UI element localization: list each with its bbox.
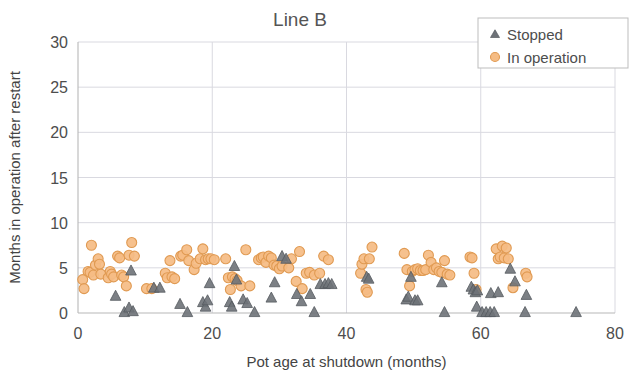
data-point-in-operation — [501, 243, 511, 253]
data-point-stopped — [249, 307, 260, 317]
y-tick-label: 20 — [50, 124, 68, 141]
data-point-in-operation — [129, 251, 139, 261]
data-point-in-operation — [362, 287, 372, 297]
y-tick-label: 10 — [50, 215, 68, 232]
y-tick-label: 30 — [50, 34, 68, 51]
x-tick-label: 40 — [338, 325, 356, 342]
data-point-stopped — [269, 277, 280, 287]
data-point-in-operation — [522, 272, 532, 282]
data-point-in-operation — [221, 254, 231, 264]
data-point-in-operation — [209, 255, 219, 265]
data-point-in-operation — [127, 238, 137, 248]
data-point-in-operation — [241, 245, 251, 255]
data-point-in-operation — [170, 274, 180, 284]
data-point-stopped — [229, 260, 240, 270]
data-point-in-operation — [245, 281, 255, 291]
data-point-stopped — [521, 289, 532, 299]
gridlines — [78, 42, 615, 313]
y-tick-label: 15 — [50, 170, 68, 187]
data-point-in-operation — [364, 254, 374, 264]
x-tick-label: 60 — [472, 325, 490, 342]
legend-marker-circle-icon — [491, 53, 500, 62]
data-point-stopped — [175, 298, 186, 308]
data-point-in-operation — [405, 281, 415, 291]
data-point-in-operation — [121, 281, 131, 291]
data-point-in-operation — [469, 268, 479, 278]
data-point-in-operation — [94, 259, 104, 269]
data-point-stopped — [204, 278, 215, 288]
data-point-in-operation — [284, 263, 294, 273]
data-point-in-operation — [86, 240, 96, 250]
chart-title: Line B — [273, 9, 327, 30]
data-point-in-operation — [315, 268, 325, 278]
data-point-stopped — [493, 287, 504, 297]
data-point-in-operation — [295, 247, 305, 257]
legend-label: In operation — [507, 49, 586, 66]
data-point-in-operation — [225, 285, 235, 295]
data-point-stopped — [439, 307, 450, 317]
data-point-stopped — [510, 276, 521, 286]
y-axis-label: Months in operation after restart — [6, 70, 23, 283]
data-point-in-operation — [115, 253, 125, 263]
data-point-stopped — [520, 307, 531, 317]
data-point-in-operation — [440, 256, 450, 266]
data-point-stopped — [571, 307, 582, 317]
x-tick-label: 80 — [606, 325, 624, 342]
data-point-in-operation — [198, 244, 208, 254]
scatter-chart: 020406080051015202530Pot age at shutdown… — [0, 0, 632, 388]
data-point-in-operation — [399, 248, 409, 258]
data-point-in-operation — [165, 256, 175, 266]
y-tick-label: 25 — [50, 79, 68, 96]
data-point-stopped — [309, 307, 320, 317]
data-point-in-operation — [503, 254, 513, 264]
data-point-stopped — [126, 265, 137, 275]
y-tick-label: 0 — [59, 305, 68, 322]
chart-legend: StoppedIn operation — [478, 18, 628, 68]
data-point-in-operation — [182, 245, 192, 255]
data-point-in-operation — [467, 253, 477, 263]
x-tick-label: 20 — [203, 325, 221, 342]
y-tick-label: 5 — [59, 260, 68, 277]
legend-label: Stopped — [507, 26, 563, 43]
x-axis-label: Pot age at shutdown (months) — [246, 353, 446, 370]
data-point-stopped — [110, 290, 121, 300]
x-tick-label: 0 — [74, 325, 83, 342]
chart-figure: 020406080051015202530Pot age at shutdown… — [0, 0, 632, 388]
data-points — [78, 238, 582, 317]
data-point-in-operation — [79, 284, 89, 294]
data-point-in-operation — [445, 270, 455, 280]
data-point-stopped — [266, 292, 277, 302]
data-point-in-operation — [323, 255, 333, 265]
data-point-in-operation — [367, 242, 377, 252]
